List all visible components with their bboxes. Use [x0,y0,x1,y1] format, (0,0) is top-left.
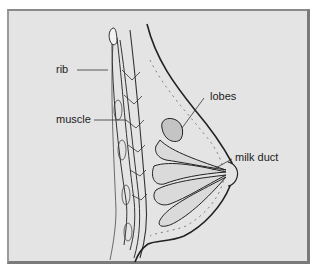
breast-outline [135,24,233,262]
chest-muscle [114,30,147,258]
label-rib: rib [56,63,68,75]
label-muscle: muscle [56,113,91,125]
nipple [228,162,238,186]
lobes-leader-line [182,98,204,128]
label-milk-duct: milk duct [235,151,278,163]
breast-anatomy-illustration [0,0,316,274]
label-lobes: lobes [210,90,236,102]
leader-lines [77,70,232,170]
